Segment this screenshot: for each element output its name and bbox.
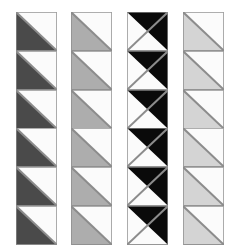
tile-diagonal-icon	[183, 90, 224, 129]
tile	[71, 90, 112, 129]
tile-diagonal-icon	[183, 12, 224, 51]
tile	[16, 90, 57, 129]
tile-diagonal-icon	[127, 12, 168, 51]
tile-diagonal-icon	[16, 206, 57, 245]
tile-diagonal-icon	[183, 167, 224, 206]
tile-diagonal-icon	[16, 51, 57, 90]
tile-diagonal-icon	[127, 90, 168, 129]
tile-diagonal-icon	[71, 51, 112, 90]
tile	[127, 206, 168, 245]
tile-column-1	[16, 12, 57, 245]
tile-diagonal-icon	[71, 206, 112, 245]
tile-diagonal-icon	[16, 90, 57, 129]
tile	[183, 206, 224, 245]
tile	[127, 12, 168, 51]
tile	[16, 206, 57, 245]
tile	[71, 51, 112, 90]
tile	[127, 51, 168, 90]
tile-diagonal-icon	[16, 167, 57, 206]
tile	[71, 128, 112, 167]
tile-diagonal-icon	[16, 12, 57, 51]
tile-diagonal-icon	[16, 128, 57, 167]
tile	[183, 12, 224, 51]
tile-column-4	[183, 12, 224, 245]
tile	[183, 51, 224, 90]
tile	[71, 206, 112, 245]
tile-diagonal-icon	[183, 51, 224, 90]
tile-diagonal-icon	[71, 90, 112, 129]
tile	[183, 128, 224, 167]
tile	[16, 167, 57, 206]
tile-diagonal-icon	[71, 167, 112, 206]
tile-column-3	[127, 12, 168, 245]
tile	[183, 90, 224, 129]
tile-diagonal-icon	[71, 128, 112, 167]
tile-diagonal-icon	[127, 51, 168, 90]
tile	[127, 167, 168, 206]
tile-diagonal-icon	[127, 206, 168, 245]
tile	[183, 167, 224, 206]
tile	[16, 51, 57, 90]
tile-diagonal-icon	[127, 167, 168, 206]
tile	[71, 167, 112, 206]
tile	[16, 12, 57, 51]
tile-diagonal-icon	[183, 206, 224, 245]
tile-diagonal-icon	[183, 128, 224, 167]
tile-column-2	[71, 12, 112, 245]
tile	[16, 128, 57, 167]
tile	[127, 90, 168, 129]
tile-diagonal-icon	[71, 12, 112, 51]
tile	[127, 128, 168, 167]
tile	[71, 12, 112, 51]
pattern-canvas	[0, 0, 230, 251]
tile-diagonal-icon	[127, 128, 168, 167]
